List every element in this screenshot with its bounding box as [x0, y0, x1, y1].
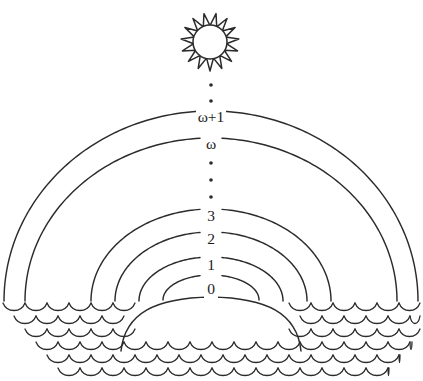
rainbow-arc-omega	[222, 138, 397, 301]
wave-scallop	[80, 316, 102, 324]
arc-label: ω+1	[198, 108, 225, 125]
wave-scallop	[14, 316, 36, 324]
wave-scallop	[300, 368, 322, 376]
wave-scallop	[355, 355, 377, 363]
wave-scallop	[124, 342, 146, 350]
wave-scallop	[300, 342, 322, 350]
wave-scallop	[300, 316, 322, 324]
wave-scallop	[333, 303, 355, 311]
wave-scallop	[212, 342, 234, 350]
wave-scallop	[410, 342, 412, 350]
wave-scallop	[388, 342, 410, 350]
wave-scallop	[146, 342, 168, 350]
rainbow-arc-3	[222, 209, 331, 301]
wave-scallop	[91, 329, 113, 337]
wave-scallop	[256, 342, 278, 350]
wave-scallop	[25, 329, 47, 337]
rainbow-arc-3	[91, 209, 200, 301]
wave-scallop	[355, 329, 377, 337]
arc-label: 1	[207, 256, 215, 273]
wave-scallop	[311, 355, 333, 363]
arc-label: 3	[207, 207, 215, 224]
wave-scallop	[311, 329, 333, 337]
wave-scallop	[322, 342, 344, 350]
wave-scallop	[322, 368, 344, 376]
wave-scallop	[91, 303, 113, 311]
wave-scallop	[102, 368, 124, 376]
wave-scallop	[58, 368, 80, 376]
wave-scallop	[344, 368, 366, 376]
wave-scallop	[234, 342, 256, 350]
rainbow-arc-omega	[25, 138, 200, 301]
wave-scallop	[102, 316, 124, 324]
sun-core-icon	[193, 25, 227, 59]
arc-label: 2	[207, 230, 215, 247]
wave-scallop	[135, 355, 157, 363]
sun-icon	[181, 14, 239, 71]
water-waves	[3, 303, 420, 376]
wave-scallop	[256, 368, 278, 376]
rainbow-arc-1	[139, 258, 200, 301]
wave-scallop	[278, 368, 300, 376]
wave-scallop	[47, 329, 69, 337]
wave-scallop	[333, 355, 355, 363]
wave-scallop	[157, 355, 179, 363]
ellipsis-dot	[209, 178, 213, 182]
wave-scallop	[311, 303, 333, 311]
wave-scallop	[223, 355, 245, 363]
wave-scallop	[47, 355, 69, 363]
wave-scallop	[91, 355, 113, 363]
wave-scallop	[322, 316, 344, 324]
ellipsis-dot	[209, 99, 213, 103]
wave-scallop	[289, 303, 311, 311]
wave-scallop	[366, 342, 388, 350]
wave-scallop	[267, 355, 289, 363]
wave-scallop	[388, 316, 410, 324]
wave-scallop	[399, 355, 400, 363]
wave-scallop	[333, 329, 355, 337]
wave-scallop	[36, 316, 58, 324]
wave-scallop	[234, 368, 256, 376]
rainbow-arc-2	[115, 232, 200, 301]
wave-scallop	[344, 316, 366, 324]
arc-label-group: 0123ωω+1	[196, 108, 226, 299]
wave-scallop	[47, 303, 69, 311]
arc-label: ω	[206, 135, 216, 152]
rainbow-arc-omega-plus-1	[4, 111, 200, 301]
ellipsis-dot	[209, 83, 213, 87]
wave-scallop	[146, 368, 168, 376]
wave-scallop	[3, 303, 25, 311]
wave-scallop	[58, 342, 80, 350]
rainbow-arc-0	[163, 276, 200, 300]
wave-scallop	[388, 368, 389, 376]
wave-scallop	[289, 329, 311, 337]
arc-label: 0	[207, 280, 215, 297]
wave-scallop	[377, 303, 399, 311]
wave-scallop	[168, 368, 190, 376]
wave-scallop	[355, 303, 377, 311]
wave-scallop	[377, 329, 399, 337]
wave-scallop	[399, 329, 420, 337]
wave-scallop	[201, 355, 223, 363]
wave-scallop	[366, 316, 388, 324]
vertical-ellipsis-upper	[209, 83, 213, 103]
wave-scallop	[245, 355, 267, 363]
figure-canvas: 0123ωω+1	[0, 0, 423, 381]
wave-scallop	[212, 368, 234, 376]
wave-scallop	[36, 342, 58, 350]
wave-scallop	[69, 355, 91, 363]
wave-scallop	[399, 303, 420, 311]
wave-scallop	[80, 368, 102, 376]
ellipsis-dot	[209, 195, 213, 199]
wave-scallop	[168, 342, 190, 350]
wave-scallop	[344, 342, 366, 350]
wave-scallop	[410, 316, 420, 324]
wave-scallop	[80, 342, 102, 350]
rainbow-arc-omega-plus-1	[222, 111, 418, 301]
wave-scallop	[366, 368, 388, 376]
wave-scallop	[124, 368, 146, 376]
wave-scallop	[69, 329, 91, 337]
wave-scallop	[58, 316, 80, 324]
figure-root: 0123ωω+1	[0, 0, 423, 381]
rainbow-arc-1	[222, 258, 283, 301]
